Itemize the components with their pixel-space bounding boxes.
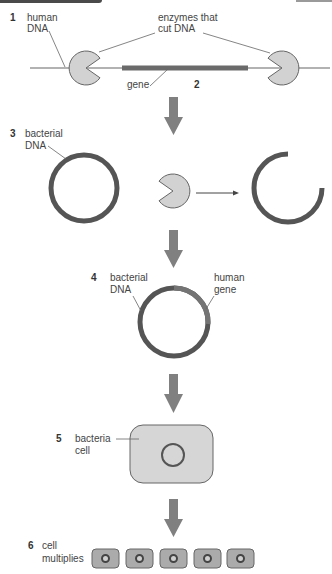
- step-4-number: 4: [91, 272, 97, 284]
- down-arrow-1-icon: [164, 97, 183, 135]
- small-cell-4: [194, 549, 221, 568]
- enzymes-label-line2: cut DNA: [158, 23, 195, 35]
- step-3-bacterial-dna: [48, 146, 322, 222]
- step4-bacterial-dna-line1: bacterial: [110, 272, 148, 284]
- bacterial-dna-label-line2: DNA: [25, 140, 46, 152]
- step4-bacterial-dna-line2: DNA: [110, 284, 131, 296]
- bacteria-cell-label-line2: cell: [75, 445, 90, 457]
- down-arrow-2-icon: [164, 230, 183, 268]
- cut-plasmid-arc: [254, 154, 322, 222]
- step-6-cell-multiplies: [92, 549, 254, 568]
- cell-multiplies-label-line2: multiplies: [42, 553, 84, 565]
- genetic-engineering-diagram: [0, 0, 332, 574]
- leader-human-gene: [206, 296, 214, 309]
- gene-segment: [122, 66, 248, 71]
- step-3-number: 3: [10, 128, 16, 140]
- step-5-bacteria-cell: [116, 425, 213, 483]
- leader-enzyme-right: [203, 33, 270, 53]
- bacterial-dna-plasmid: [51, 155, 117, 221]
- down-arrow-3-icon: [164, 374, 183, 413]
- leader-human-dna: [49, 31, 65, 67]
- down-arrow-4-icon: [164, 499, 183, 537]
- step-6-number: 6: [28, 540, 34, 552]
- cell-multiplies-label-line1: cell: [42, 540, 57, 552]
- leader-enzyme-left: [99, 33, 155, 52]
- human-dna-label-line2: DNA: [27, 23, 48, 35]
- step-4-recombinant-plasmid: [133, 288, 214, 356]
- human-gene-segment: [174, 288, 208, 324]
- step-5-number: 5: [56, 433, 62, 445]
- process-arrowhead-icon: [233, 191, 239, 196]
- enzyme-icon: [159, 174, 190, 208]
- bacteria-cell: [130, 425, 213, 483]
- step-1-human-dna: [30, 31, 330, 86]
- human-gene-label-line2: gene: [214, 284, 236, 296]
- small-cell-1: [92, 549, 119, 568]
- step-1-number: 1: [10, 12, 16, 24]
- small-cell-5: [227, 549, 254, 568]
- leader-bacterial-dna: [48, 146, 66, 159]
- human-gene-label-line1: human: [214, 272, 245, 284]
- small-cell-2: [126, 549, 153, 568]
- bacteria-cell-label-line1: bacteria: [75, 433, 111, 445]
- step-2-number: 2: [194, 79, 200, 91]
- small-cell-3: [160, 549, 187, 568]
- gene-label: gene: [127, 79, 149, 91]
- leader-bacterial-dna-4: [133, 296, 141, 311]
- bacterial-dna-label-line1: bacterial: [25, 128, 63, 140]
- leader-gene: [150, 69, 168, 86]
